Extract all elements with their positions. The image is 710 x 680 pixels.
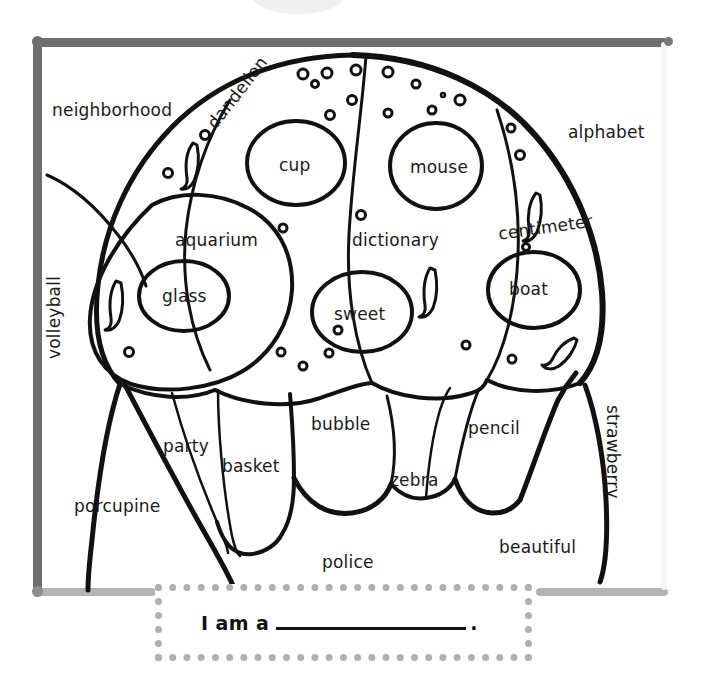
- word-party: party: [163, 436, 209, 456]
- frame-rail-bottom-right: [536, 588, 668, 596]
- word-aquarium: aquarium: [175, 230, 258, 250]
- word-dictionary: dictionary: [352, 230, 439, 250]
- word-pencil: pencil: [468, 418, 520, 438]
- answer-prompt-label: I am a: [201, 612, 269, 634]
- frame-cap-top-right: [664, 37, 673, 46]
- word-centimeter: centimeter: [497, 211, 594, 244]
- frame-cap-bottom-left: [32, 586, 43, 597]
- frame-rail-right: [661, 42, 667, 590]
- word-beautiful: beautiful: [499, 537, 576, 557]
- word-dandelion: dandelion: [203, 53, 271, 133]
- word-neighborhood: neighborhood: [52, 100, 172, 120]
- answer-period: .: [470, 612, 477, 634]
- word-basket: basket: [222, 456, 280, 476]
- worksheet-page: neighborhood alphabet dandelion cup mous…: [0, 0, 710, 680]
- frame-rail-top: [33, 38, 667, 47]
- word-police: police: [322, 552, 374, 572]
- frame-rail-bottom-left: [33, 588, 156, 596]
- frame-cap-top-left: [32, 36, 43, 47]
- answer-prompt-inner: I am a .: [201, 612, 477, 634]
- frame-rail-left: [33, 38, 42, 594]
- top-edge-smudge: [250, 0, 346, 14]
- word-boat: boat: [509, 279, 548, 299]
- word-strawberry: strawberry: [603, 405, 623, 499]
- word-zebra: zebra: [390, 470, 439, 490]
- word-bubble: bubble: [311, 414, 371, 434]
- word-mouse: mouse: [410, 157, 468, 177]
- word-cup: cup: [279, 155, 311, 175]
- answer-blank-line[interactable]: [276, 613, 466, 630]
- word-alphabet: alphabet: [568, 122, 645, 142]
- word-glass: glass: [162, 286, 207, 306]
- word-volleyball: volleyball: [44, 276, 64, 359]
- word-sweet: sweet: [334, 304, 385, 324]
- answer-prompt-box: I am a .: [155, 584, 532, 661]
- word-porcupine: porcupine: [74, 496, 160, 516]
